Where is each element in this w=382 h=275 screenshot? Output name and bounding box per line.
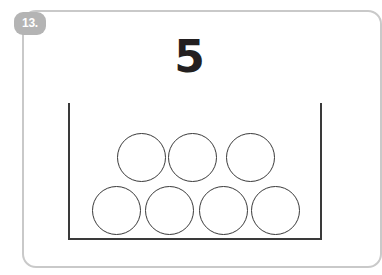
counter-circle[interactable]: [168, 133, 217, 182]
counter-circle[interactable]: [251, 186, 300, 235]
counter-circle[interactable]: [117, 133, 166, 182]
counter-circle[interactable]: [92, 186, 141, 235]
problem-number-badge: 13.: [14, 12, 46, 35]
counter-circle[interactable]: [145, 186, 194, 235]
counter-circle[interactable]: [226, 133, 275, 182]
counter-circle[interactable]: [199, 186, 248, 235]
target-number-label: 5: [0, 33, 351, 81]
